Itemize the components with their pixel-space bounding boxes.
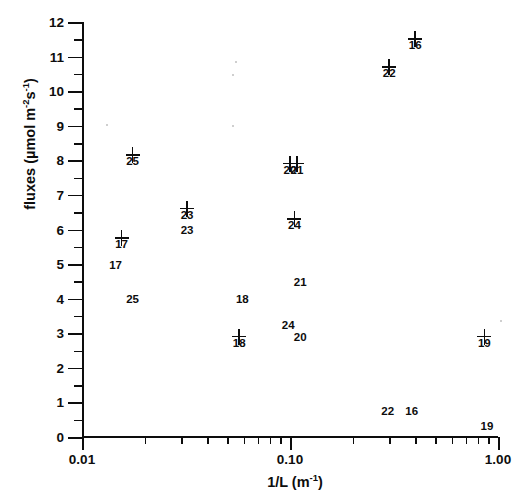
y-tick-minor [74,316,82,318]
x-axis-title: 1/L (m-1) [0,472,520,490]
x-tick-minor [145,437,147,444]
x-tick-minor [258,437,260,444]
x-tick-minor [270,437,272,444]
x-tick-label: 0.10 [277,452,303,467]
y-tick-major [68,368,82,370]
annotation-label: 22 [381,406,394,418]
scan-speck [232,74,234,76]
y-tick-label: 3 [16,326,64,341]
y-axis-line [82,22,84,437]
y-tick-major [68,402,82,404]
data-point-label: 18 [233,338,246,350]
y-tick-label: 1 [16,395,64,410]
y-tick-major [68,437,82,439]
data-point-label: 19 [478,338,491,350]
x-tick-label: 1.00 [485,452,511,467]
x-tick-minor [280,437,282,444]
y-tick-minor [74,39,82,41]
x-tick-label: 0.01 [69,452,95,467]
y-tick-minor [74,247,82,249]
y-tick-label: 0 [16,430,64,445]
annotation-label: 20 [294,333,307,345]
y-axis-title: fluxes (µmol m-2s-1) [20,19,38,269]
y-tick-major [68,333,82,335]
data-point-label: 22 [383,68,396,80]
scan-speck [235,61,237,63]
y-tick-minor [74,351,82,353]
annotation-label: 17 [109,260,122,272]
x-tick-minor [353,437,355,444]
y-tick-minor [74,212,82,214]
data-point-label: 25 [126,156,139,168]
data-point-label: 23 [181,210,194,222]
data-point-label: 24 [288,220,301,232]
y-tick-major [68,22,82,24]
y-tick-major [68,299,82,301]
y-tick-major [68,230,82,232]
x-tick-major [290,437,292,450]
annotation-label: 16 [405,406,418,418]
x-tick-minor [207,437,209,444]
x-tick-minor [415,437,417,444]
x-tick-minor [488,437,490,444]
annotation-label: 21 [294,277,307,289]
y-tick-minor [74,74,82,76]
x-tick-minor [435,437,437,444]
y-tick-label: 2 [16,360,64,375]
y-tick-minor [74,385,82,387]
y-axis-title-text: fluxes (µmol m-2s-1) [22,78,38,210]
y-tick-major [68,195,82,197]
scatter-plot-figure: 0123456789101112 0.010.101.00 2517231824… [0,0,520,498]
data-point-label: 17 [115,239,128,251]
y-tick-label: 4 [16,291,64,306]
y-tick-major [68,91,82,93]
y-tick-minor [74,143,82,145]
data-point-label: 21 [291,165,304,177]
scan-speck [500,320,502,322]
x-tick-minor [244,437,246,444]
x-tick-minor [452,437,454,444]
y-tick-minor [74,281,82,283]
annotation-label: 23 [181,225,194,237]
x-tick-minor [466,437,468,444]
y-tick-minor [74,178,82,180]
data-point-label: 16 [409,40,422,52]
x-tick-major [498,437,500,450]
annotation-label: 19 [481,422,494,434]
x-tick-minor [181,437,183,444]
y-tick-minor [74,108,82,110]
annotation-label: 18 [236,295,249,307]
y-tick-major [68,57,82,59]
scan-speck [106,124,108,126]
y-tick-minor [74,420,82,422]
x-tick-major [82,437,84,450]
x-tick-minor [389,437,391,444]
annotation-label: 25 [126,295,139,307]
y-tick-major [68,264,82,266]
y-tick-major [68,160,82,162]
scan-speck [232,125,234,127]
x-tick-minor [478,437,480,444]
x-tick-minor [227,437,229,444]
x-axis-title-text: 1/L (m-1) [267,474,323,490]
y-tick-major [68,126,82,128]
annotation-label: 24 [282,321,295,333]
